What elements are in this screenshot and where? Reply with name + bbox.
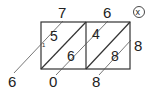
carry-mark: 1 — [42, 42, 46, 48]
multiplicand-digit-2: 6 — [103, 4, 111, 21]
times-icon: x — [134, 7, 145, 18]
times-icon-glyph: x — [136, 7, 141, 17]
cell-2-tens: 4 — [92, 26, 100, 42]
result-digit-2: 0 — [49, 73, 57, 90]
cell-1-tens: 5 — [50, 28, 58, 44]
cell-diagonal-1 — [41, 22, 86, 69]
result-digit-3: 8 — [92, 73, 100, 90]
cell-1-ones: 6 — [67, 48, 75, 64]
multiplicand-digit-1: 7 — [58, 4, 66, 21]
lattice-diagram: 7 6 x 8 5 6 4 8 1 6 0 8 — [0, 0, 150, 92]
result-digit-1: 6 — [8, 73, 16, 90]
multiplier-digit: 8 — [134, 37, 142, 54]
cell-2-ones: 8 — [111, 48, 119, 64]
guide-2 — [56, 21, 108, 75]
